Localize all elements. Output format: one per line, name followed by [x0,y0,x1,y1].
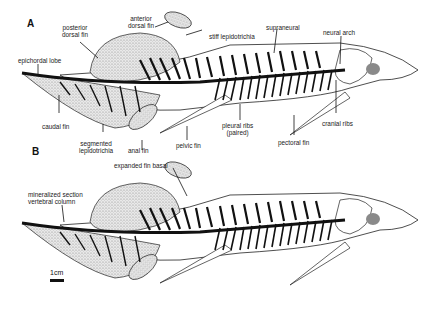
label-pelvic-fin: pelvic fin [176,142,201,149]
scale-bar-label: 1cm [50,269,63,276]
label-pectoral-fin: pectoral fin [278,139,309,146]
label-caudal-fin: caudal fin [42,123,69,130]
label-segmented-lepidotrichia: segmented lepidotrichia [79,140,113,155]
label-posterior-dorsal-fin: posterior dorsal fin [62,24,88,39]
panel-letter-b: B [32,146,39,157]
fish-b [22,159,418,285]
label-anal-fin: anal fin [128,147,149,154]
label-stiff-lepidotrichia: stiff lepidotrichia [209,33,255,40]
label-supraneural: supraneural [266,24,300,31]
label-epichordal-lobe: epichordal lobe [18,57,61,64]
label-cranial-ribs: cranial ribs [322,120,353,127]
label-mineralized-section-vertebral-column: mineralized section vertebral column [28,191,83,206]
scale-bar [50,279,64,282]
label-anterior-dorsal-fin: anterior dorsal fin [128,15,154,30]
label-expanded-fin-basal: expanded fin basal [114,162,168,169]
label-neural-arch: neural arch [323,29,355,36]
panel-letter-a: A [27,18,34,29]
fish-skeleton-illustration [0,0,433,313]
label-pleural-ribs: pleural ribs (paired) [222,122,253,137]
